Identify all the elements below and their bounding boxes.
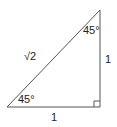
right-angle-marker <box>94 101 100 107</box>
horizontal-leg-label: 1 <box>51 111 57 123</box>
bottom-left-angle-label: 45° <box>18 93 35 105</box>
top-angle-label: 45° <box>83 24 100 36</box>
triangle-diagram: 45° 45° √2 1 1 <box>0 0 117 127</box>
hypotenuse-label: √2 <box>24 50 36 62</box>
vertical-leg-label: 1 <box>105 53 111 65</box>
